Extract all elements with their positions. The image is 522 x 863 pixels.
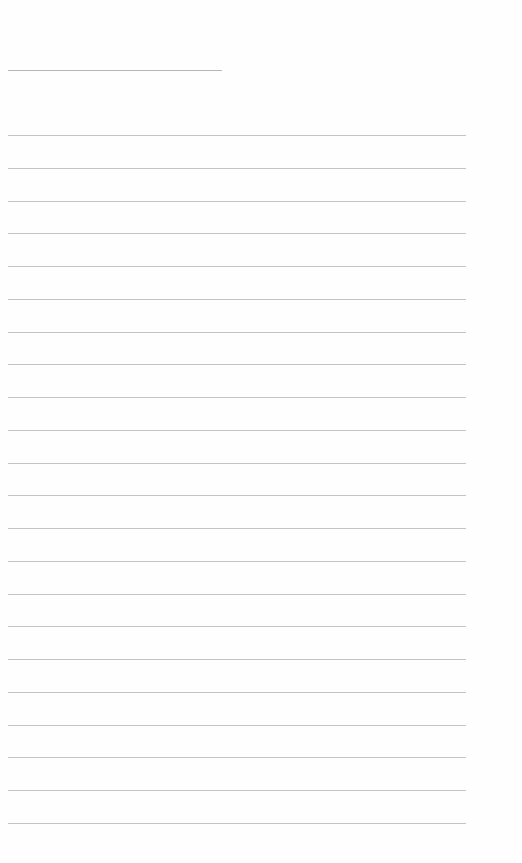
ruled-line bbox=[8, 790, 466, 791]
title-line bbox=[8, 70, 222, 71]
ruled-line bbox=[8, 692, 466, 693]
ruled-line bbox=[8, 168, 466, 169]
ruled-line bbox=[8, 463, 466, 464]
ruled-line bbox=[8, 626, 466, 627]
ruled-line bbox=[8, 430, 466, 431]
ruled-line bbox=[8, 594, 466, 595]
ruled-line bbox=[8, 659, 466, 660]
ruled-line bbox=[8, 823, 466, 824]
ruled-line bbox=[8, 725, 466, 726]
ruled-line bbox=[8, 757, 466, 758]
ruled-line bbox=[8, 299, 466, 300]
ruled-line bbox=[8, 364, 466, 365]
ruled-line bbox=[8, 495, 466, 496]
ruled-line bbox=[8, 233, 466, 234]
ruled-line bbox=[8, 528, 466, 529]
ruled-line bbox=[8, 397, 466, 398]
ruled-line bbox=[8, 332, 466, 333]
ruled-line bbox=[8, 135, 466, 136]
ruled-line bbox=[8, 266, 466, 267]
ruled-line bbox=[8, 201, 466, 202]
lined-page bbox=[0, 0, 522, 863]
ruled-line bbox=[8, 561, 466, 562]
